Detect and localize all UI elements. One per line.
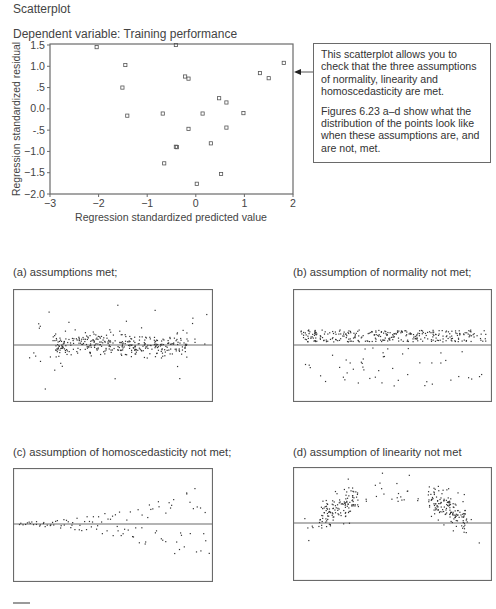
data-point bbox=[267, 77, 270, 80]
data-point bbox=[282, 61, 285, 64]
data-point bbox=[187, 77, 190, 80]
data-point bbox=[218, 97, 221, 100]
data-point bbox=[209, 142, 212, 145]
panel-dots bbox=[304, 473, 480, 544]
callout-box: This scatterplot allows you to check tha… bbox=[313, 43, 491, 163]
panel-b-plot bbox=[293, 289, 492, 402]
data-point bbox=[225, 101, 228, 104]
data-point bbox=[242, 112, 245, 115]
data-point bbox=[225, 126, 228, 129]
y-axis-label: Regression standardized residual bbox=[11, 42, 22, 196]
data-point bbox=[258, 71, 261, 74]
data-point bbox=[219, 172, 222, 175]
x-axis-label: Regression standardized predicted value bbox=[75, 211, 267, 223]
data-point bbox=[124, 63, 127, 66]
y-tick-label: -.5 bbox=[33, 124, 45, 136]
x-tick-label: 0 bbox=[193, 197, 199, 209]
panel-dots bbox=[29, 305, 207, 390]
x-tick-label: 2 bbox=[290, 197, 296, 209]
callout-paragraph-1: This scatterplot allows you to check tha… bbox=[321, 48, 483, 98]
arrowhead-icon bbox=[294, 69, 301, 75]
data-point bbox=[95, 46, 98, 49]
panel-c-label: (c) assumption of homoscedasticity not m… bbox=[13, 446, 231, 458]
main-axes: −3−2−10121.51.0.50.0-.5−1.0−1.5−2.0 bbox=[24, 39, 296, 210]
x-tick-label: −2 bbox=[93, 197, 105, 209]
data-point bbox=[187, 127, 190, 130]
data-point bbox=[161, 112, 164, 115]
panel-d-plot bbox=[293, 467, 492, 581]
y-tick-label: −1.5 bbox=[24, 166, 45, 178]
panel-frame bbox=[294, 468, 492, 581]
y-tick-label: −1.0 bbox=[24, 145, 45, 157]
panel-a-plot bbox=[13, 289, 213, 402]
x-tick-label: −3 bbox=[44, 197, 56, 209]
data-point bbox=[201, 112, 204, 115]
footer-rule bbox=[13, 602, 30, 604]
panel-dots bbox=[301, 329, 487, 386]
y-tick-label: .5 bbox=[36, 81, 45, 93]
x-tick-label: −1 bbox=[141, 197, 153, 209]
panel-c-plot bbox=[13, 468, 213, 582]
panel-a-label: (a) assumptions met; bbox=[13, 266, 117, 278]
panel-d-label: (d) assumption of linearity not met bbox=[293, 446, 462, 458]
panel-dots bbox=[19, 488, 210, 554]
data-point bbox=[163, 162, 166, 165]
panel-b-label: (b) assumption of normality not met; bbox=[293, 266, 471, 278]
y-tick-label: 1.0 bbox=[30, 60, 45, 72]
data-point bbox=[121, 86, 124, 89]
panel-frame bbox=[14, 469, 213, 582]
x-tick-label: 1 bbox=[241, 197, 247, 209]
plot-frame bbox=[50, 44, 293, 194]
data-point bbox=[184, 75, 187, 78]
main-data-points bbox=[95, 43, 285, 185]
y-tick-label: −2.0 bbox=[24, 188, 45, 200]
y-tick-label: 1.5 bbox=[30, 39, 45, 51]
callout-paragraph-2: Figures 6.23 a–d show what the distribut… bbox=[321, 105, 483, 155]
data-point bbox=[195, 182, 198, 185]
data-point bbox=[126, 114, 129, 117]
callout-arrow bbox=[294, 69, 313, 75]
y-tick-label: 0.0 bbox=[30, 102, 45, 114]
